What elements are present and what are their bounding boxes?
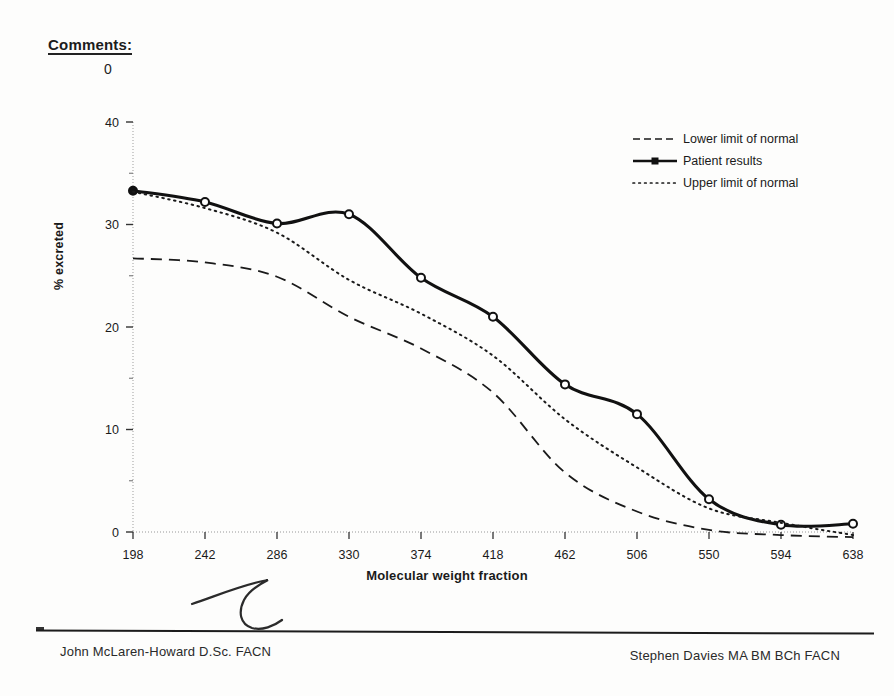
- data-point-marker: [489, 313, 497, 321]
- x-tick-label: 506: [627, 548, 648, 562]
- y-tick-label: 0: [112, 526, 119, 540]
- data-point-marker: [561, 380, 569, 388]
- x-tick-label: 594: [771, 548, 792, 562]
- data-point-marker: [345, 210, 353, 218]
- legend-label-upper: Upper limit of normal: [683, 176, 798, 190]
- series-line: [133, 258, 853, 537]
- series-line: [133, 192, 853, 535]
- y-tick-label: 40: [105, 116, 119, 130]
- legend-label-patient: Patient results: [683, 154, 762, 168]
- x-tick-label: 374: [411, 548, 432, 562]
- series-line: [133, 191, 853, 527]
- solid-line-marker-icon: [632, 154, 678, 168]
- legend-item-upper: Upper limit of normal: [632, 172, 798, 194]
- footer-author-left: John McLaren-Howard D.Sc. FACN: [60, 644, 271, 659]
- chart-legend: Lower limit of normal Patient results Up…: [632, 128, 798, 194]
- data-point-marker: [633, 410, 641, 418]
- data-point-marker: [849, 520, 857, 528]
- legend-label-lower: Lower limit of normal: [683, 132, 798, 146]
- x-axis-title: Molecular weight fraction: [0, 568, 894, 583]
- comments-value: 0: [62, 61, 154, 77]
- y-tick-label: 10: [105, 423, 119, 437]
- x-tick-label: 198: [123, 548, 144, 562]
- comments-label: Comments:: [48, 36, 132, 55]
- footer-author-right: Stephen Davies MA BM BCh FACN: [630, 648, 840, 663]
- data-point-marker: [273, 219, 281, 227]
- legend-item-patient: Patient results: [632, 150, 798, 172]
- data-point-marker: [129, 187, 137, 195]
- dashed-line-icon: [632, 132, 678, 146]
- x-tick-label: 550: [699, 548, 720, 562]
- data-point-marker: [705, 495, 713, 503]
- data-point-marker: [417, 274, 425, 282]
- y-axis-title: % excreted: [52, 222, 66, 290]
- x-tick-label: 638: [843, 548, 864, 562]
- handwritten-signature-mark: [186, 576, 356, 634]
- x-tick-label: 418: [483, 548, 504, 562]
- x-tick-label: 286: [267, 548, 288, 562]
- y-tick-label: 20: [105, 321, 119, 335]
- x-tick-label: 330: [339, 548, 360, 562]
- report-page: Comments: 0 0102030401982422863303744184…: [0, 0, 894, 696]
- comments-block: Comments: 0: [48, 36, 228, 77]
- y-tick-label: 30: [105, 218, 119, 232]
- data-point-marker: [201, 198, 209, 206]
- x-tick-label: 462: [555, 548, 576, 562]
- x-tick-label: 242: [195, 548, 216, 562]
- dotted-line-icon: [632, 176, 678, 190]
- footer-divider: [36, 629, 874, 634]
- legend-item-lower: Lower limit of normal: [632, 128, 798, 150]
